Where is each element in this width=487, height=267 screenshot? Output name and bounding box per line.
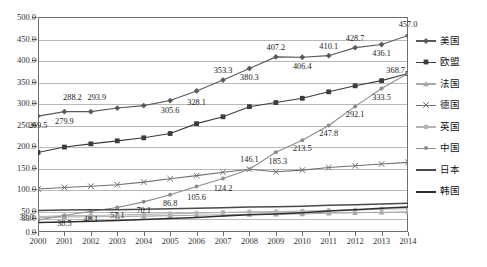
data-label: 38.5 — [57, 220, 72, 229]
data-label: 368.7 — [386, 67, 405, 76]
legend-item-韩国[interactable]: 韩国 — [416, 181, 486, 203]
data-label: 380.3 — [240, 74, 259, 83]
data-label: 86.8 — [163, 199, 178, 208]
legend-label: 韩国 — [440, 186, 460, 196]
legend-item-中国[interactable]: 中国 — [416, 138, 486, 160]
data-label: 48.1 — [84, 216, 99, 225]
legend-item-英国[interactable]: 英国 — [416, 116, 486, 138]
data-label: 146.1 — [240, 156, 259, 165]
data-label: 457.0 — [399, 21, 418, 30]
y-tick-label: 400.0 — [2, 56, 36, 65]
data-label: 407.2 — [267, 44, 286, 53]
legend-label: 英国 — [440, 122, 460, 132]
legend-marker-icon — [416, 36, 436, 46]
legend-label: 美国 — [440, 36, 460, 46]
y-tick-label: 450.0 — [2, 35, 36, 44]
data-label: 185.3 — [269, 158, 288, 167]
legend-marker-icon — [416, 122, 436, 132]
data-label: 33.0 — [19, 214, 34, 223]
y-tick-label: 300.0 — [2, 99, 36, 108]
data-label: 333.5 — [372, 93, 391, 102]
data-label: 288.2 — [63, 93, 82, 102]
chart-legend: 美国欧盟法国德国英国中国日本韩国 — [416, 30, 486, 202]
legend-marker-icon — [416, 100, 436, 110]
legend-label: 中国 — [440, 143, 460, 153]
data-label: 105.6 — [187, 193, 206, 202]
legend-item-法国[interactable]: 法国 — [416, 73, 486, 95]
x-axis: 2000200120022003200420052006200720082009… — [38, 232, 408, 256]
legend-item-日本[interactable]: 日本 — [416, 159, 486, 181]
data-label: 213.5 — [293, 145, 312, 154]
legend-label: 日本 — [440, 165, 460, 175]
data-label: 292.1 — [346, 111, 365, 120]
data-label: 269.5 — [29, 122, 48, 131]
data-label: 305.6 — [161, 106, 180, 115]
data-label: 410.1 — [319, 42, 338, 51]
line-chart: 0.033.050.0100.0150.0200.0250.0300.0350.… — [0, 0, 487, 267]
data-label: 436.1 — [372, 50, 391, 59]
data-label: 124.2 — [214, 184, 233, 193]
y-tick-label: 100.0 — [2, 185, 36, 194]
legend-marker-icon — [416, 186, 436, 196]
legend-label: 德国 — [440, 100, 460, 110]
x-tick-label: 2014 — [393, 237, 423, 246]
legend-item-德国[interactable]: 德国 — [416, 95, 486, 117]
data-label: 279.9 — [55, 117, 74, 126]
series-美国 — [38, 33, 408, 119]
legend-item-美国[interactable]: 美国 — [416, 30, 486, 52]
y-tick-label: 200.0 — [2, 142, 36, 151]
data-label: 247.8 — [319, 130, 338, 139]
legend-label: 法国 — [440, 79, 460, 89]
legend-marker-icon — [416, 165, 436, 175]
data-label: 328.1 — [187, 99, 206, 108]
legend-item-欧盟[interactable]: 欧盟 — [416, 52, 486, 74]
y-tick-label: 150.0 — [2, 164, 36, 173]
data-label: 57.1 — [110, 212, 125, 221]
data-label: 293.9 — [88, 93, 107, 102]
y-tick-label: 500.0 — [2, 13, 36, 22]
data-label: 353.3 — [214, 67, 233, 76]
series-layer — [38, 17, 408, 232]
data-label: 406.4 — [293, 63, 312, 72]
data-label: 428.7 — [346, 34, 365, 43]
legend-label: 欧盟 — [440, 57, 460, 67]
legend-marker-icon — [416, 79, 436, 89]
data-label: 70.1 — [136, 207, 151, 216]
y-tick-label: 350.0 — [2, 78, 36, 87]
legend-marker-icon — [416, 143, 436, 153]
legend-marker-icon — [416, 57, 436, 67]
